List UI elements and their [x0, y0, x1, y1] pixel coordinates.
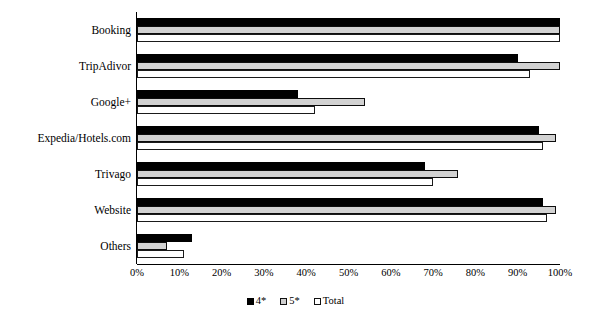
- x-tick-label: 70%: [423, 266, 442, 280]
- category-label: TripAdivor: [0, 60, 131, 72]
- bar-5star: [137, 206, 556, 214]
- bar-total: [137, 250, 184, 258]
- bar-group: [137, 162, 560, 186]
- x-tick-label: 40%: [297, 266, 316, 280]
- chart-legend: 4*5*Total: [0, 294, 591, 308]
- category-axis: BookingTripAdivorGoogle+Expedia/Hotels.c…: [0, 12, 131, 264]
- bar-4star: [137, 54, 518, 62]
- legend-item: 4*: [247, 294, 267, 308]
- gray-square-icon: [280, 298, 287, 305]
- bar-4star: [137, 162, 425, 170]
- x-tick-label: 90%: [508, 266, 527, 280]
- bar-chart: BookingTripAdivorGoogle+Expedia/Hotels.c…: [0, 0, 591, 323]
- x-tick-label: 60%: [381, 266, 400, 280]
- bar-group: [137, 126, 560, 150]
- bar-5star: [137, 170, 458, 178]
- category-label: Trivago: [0, 168, 131, 180]
- category-label: Booking: [0, 24, 131, 36]
- x-tick-label: 10%: [170, 266, 189, 280]
- bar-4star: [137, 126, 539, 134]
- x-tick-label: 20%: [212, 266, 231, 280]
- bar-5star: [137, 242, 167, 250]
- x-tick-label: 80%: [466, 266, 485, 280]
- bar-total: [137, 142, 543, 150]
- x-axis-line: [137, 264, 560, 265]
- bar-total: [137, 70, 530, 78]
- bar-group: [137, 90, 560, 114]
- bar-group: [137, 54, 560, 78]
- x-axis-ticks: 0%10%20%30%40%50%60%70%80%90%100%: [0, 266, 591, 282]
- bar-4star: [137, 234, 192, 242]
- plot-area: [137, 12, 560, 264]
- category-label: Website: [0, 204, 131, 216]
- bar-4star: [137, 90, 298, 98]
- bar-group: [137, 198, 560, 222]
- x-tick-label: 30%: [254, 266, 273, 280]
- bar-total: [137, 178, 433, 186]
- bar-5star: [137, 134, 556, 142]
- white-square-icon: [314, 298, 321, 305]
- black-square-icon: [247, 298, 254, 305]
- x-tick-label: 0%: [130, 266, 144, 280]
- category-label: Expedia/Hotels.com: [0, 132, 131, 144]
- x-tick-label: 100%: [548, 266, 573, 280]
- x-tick-label: 50%: [339, 266, 358, 280]
- legend-item: 5*: [280, 294, 300, 308]
- bar-group: [137, 234, 560, 258]
- bar-total: [137, 34, 560, 42]
- bar-total: [137, 106, 315, 114]
- bar-group: [137, 18, 560, 42]
- bar-4star: [137, 198, 543, 206]
- legend-label: 4*: [256, 295, 267, 306]
- bar-total: [137, 214, 547, 222]
- legend-label: Total: [323, 295, 344, 306]
- legend-item: Total: [314, 294, 344, 308]
- category-label: Google+: [0, 96, 131, 108]
- y-axis-line: [136, 12, 137, 264]
- bar-4star: [137, 18, 560, 26]
- bar-5star: [137, 98, 365, 106]
- category-label: Others: [0, 240, 131, 252]
- legend-label: 5*: [289, 295, 300, 306]
- bar-5star: [137, 26, 560, 34]
- bar-5star: [137, 62, 560, 70]
